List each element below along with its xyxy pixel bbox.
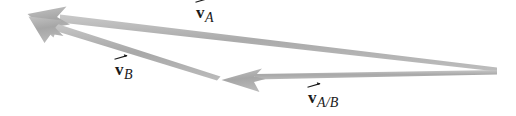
label-v-b: v B <box>115 61 133 78</box>
vector-v-ab-shaft <box>255 70 497 80</box>
vector-canvas <box>0 0 516 116</box>
v-symbol-ab: v <box>308 89 317 106</box>
subscript-v-ab: A/B <box>317 95 339 110</box>
subscript-v-a: A <box>205 10 214 25</box>
vector-diagram-figure: v A v B v A/B <box>0 0 516 116</box>
label-v-a: v A <box>196 4 214 21</box>
v-symbol-b: v <box>115 61 124 78</box>
v-symbol-a: v <box>196 4 205 21</box>
subscript-v-b: B <box>124 67 133 82</box>
vector-v-ab-arrowhead <box>222 69 266 93</box>
label-v-ab: v A/B <box>308 89 339 106</box>
vector-v-ab <box>222 69 498 93</box>
